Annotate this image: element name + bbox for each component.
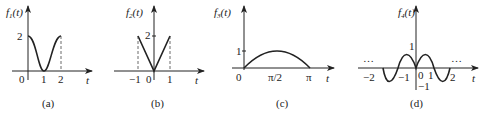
- figure-panels: f1(t) 2 0 1 2 t (a) f2(t) 2 −1 0 1 t (b)…: [0, 0, 484, 119]
- x-tick-0: 0: [19, 73, 25, 85]
- f1-curve: [28, 36, 61, 71]
- caption-d: (d): [410, 97, 423, 110]
- ellipsis-left: …: [363, 52, 374, 64]
- x-tick-0: 0: [418, 69, 424, 81]
- caption-b: (b): [151, 97, 164, 110]
- caption-c: (c): [276, 97, 289, 110]
- x-tick-pi-half: π/2: [268, 71, 282, 83]
- y-tick-1: 1: [236, 45, 242, 57]
- x-tick-m1: −1: [129, 73, 141, 85]
- x-tick-pi: π: [306, 71, 312, 83]
- x-tick-2: 2: [58, 73, 64, 85]
- x-axis-label: t: [472, 72, 476, 84]
- y-tick-m1: −1: [418, 80, 430, 92]
- y-tick-1: 1: [409, 40, 415, 52]
- y-axis-label: f2(t): [126, 6, 143, 20]
- f3-curve: [244, 51, 310, 68]
- ellipsis-right: …: [451, 52, 462, 64]
- x-tick-0: 0: [146, 73, 152, 85]
- x-tick-1: 1: [41, 73, 47, 85]
- x-tick-1: 1: [428, 69, 434, 81]
- y-tick-2: 2: [17, 30, 23, 42]
- x-tick-m2: −2: [363, 71, 375, 83]
- x-tick-m1: −1: [398, 71, 410, 83]
- x-axis-label: t: [195, 74, 199, 86]
- caption-a: (a): [42, 97, 55, 110]
- panel-a: f1(t) 2 0 1 2 t (a): [6, 6, 92, 110]
- panel-d: f4(t) 1 −1 … … −2 −1 0 1 2 t (d): [358, 6, 478, 110]
- x-tick-2: 2: [450, 71, 456, 83]
- x-axis-label: t: [326, 72, 330, 84]
- y-tick-2: 2: [145, 29, 151, 41]
- y-axis-label: f4(t): [398, 6, 415, 20]
- x-tick-1: 1: [167, 73, 173, 85]
- x-tick-0: 0: [236, 71, 242, 83]
- y-axis-label: f3(t): [214, 6, 231, 20]
- panel-b: f2(t) 2 −1 0 1 t (b): [114, 6, 204, 110]
- x-axis-label: t: [86, 74, 90, 86]
- panel-c: f3(t) 1 0 π/2 π t (c): [214, 6, 334, 110]
- y-axis-label: f1(t): [6, 6, 23, 20]
